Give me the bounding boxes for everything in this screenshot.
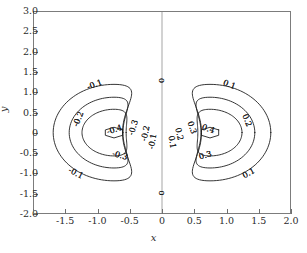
- x-tick-label: 1.0: [219, 216, 234, 226]
- x-tick-mark: [130, 209, 131, 214]
- y-tick-label: 1.5: [23, 67, 38, 77]
- contour-label-text: 0.4: [201, 122, 216, 135]
- contour-label: 00: [156, 78, 166, 83]
- contour-label: -0.1-0.1: [67, 165, 86, 181]
- contour-label-text: 0.1: [241, 165, 257, 180]
- contour-label-text: 0.1: [167, 135, 179, 149]
- y-tick-label: 2.0: [23, 47, 38, 57]
- contour-label: -0.4-0.4: [105, 122, 123, 136]
- x-tick-mark: [291, 209, 292, 214]
- y-tick-label: -1.0: [20, 168, 38, 178]
- contour-svg: -0.1-0.1-0.2-0.2-0.4-0.4-0.3-0.3-0.2-0.2…: [34, 12, 290, 213]
- contour-label-text: -0.4: [105, 122, 123, 136]
- contour-label-text: -0.1: [85, 77, 103, 92]
- contour-label: -0.3-0.3: [126, 118, 140, 136]
- plot-area: -0.1-0.1-0.2-0.2-0.4-0.4-0.3-0.3-0.2-0.2…: [33, 11, 291, 214]
- x-tick-label: -1.5: [56, 216, 74, 226]
- contour-label-text: 0: [156, 78, 166, 83]
- contour-label: 0.20.2: [240, 112, 254, 128]
- contour-label: 0.40.4: [201, 122, 216, 135]
- contour-label: 00: [156, 190, 166, 195]
- y-tick-label: 3.0: [23, 6, 38, 16]
- y-tick-label: 2.5: [23, 26, 38, 36]
- x-tick-mark: [33, 209, 34, 214]
- contour-plot-figure: -0.1-0.1-0.2-0.2-0.4-0.4-0.3-0.3-0.2-0.2…: [0, 0, 307, 253]
- contour-label: 0.10.1: [241, 165, 257, 180]
- contour-level-pos-0.1: [192, 84, 270, 180]
- contour-label-text: -0.1: [146, 133, 159, 150]
- contour-level-pos-0.3: [197, 109, 242, 156]
- x-tick-mark: [227, 209, 228, 214]
- contour-label-text: 0.3: [198, 148, 213, 161]
- y-tick-label: -0.5: [20, 148, 38, 158]
- contour-label-text: 0: [156, 190, 166, 195]
- contour-label-text: 0.2: [240, 112, 254, 128]
- x-tick-mark: [194, 209, 195, 214]
- x-tick-label: -0.5: [121, 216, 139, 226]
- contour-label-text: -0.3: [126, 118, 140, 136]
- contour-label-text: -0.1: [67, 165, 86, 181]
- contour-label: -0.1-0.1: [85, 77, 103, 92]
- y-tick-label: 0: [32, 128, 38, 138]
- x-tick-label: 1.5: [251, 216, 266, 226]
- x-tick-mark: [98, 209, 99, 214]
- x-tick-mark: [162, 209, 163, 214]
- y-tick-label: -2.0: [20, 209, 38, 219]
- contour-label: 0.10.1: [167, 135, 179, 149]
- x-tick-label: 0.5: [187, 216, 202, 226]
- y-tick-label: 1.0: [23, 87, 38, 97]
- y-tick-label: 0.5: [23, 108, 38, 118]
- x-axis-title: x: [0, 232, 307, 243]
- y-axis-title: y: [0, 107, 9, 113]
- contour-label: 0.30.3: [198, 148, 213, 161]
- x-tick-mark: [259, 209, 260, 214]
- x-tick-label: -1.0: [88, 216, 106, 226]
- contour-label: -0.1-0.1: [146, 133, 159, 150]
- y-tick-label: -1.5: [20, 189, 38, 199]
- x-tick-label: 0: [159, 216, 165, 226]
- x-tick-label: 2.0: [283, 216, 298, 226]
- x-tick-mark: [65, 209, 66, 214]
